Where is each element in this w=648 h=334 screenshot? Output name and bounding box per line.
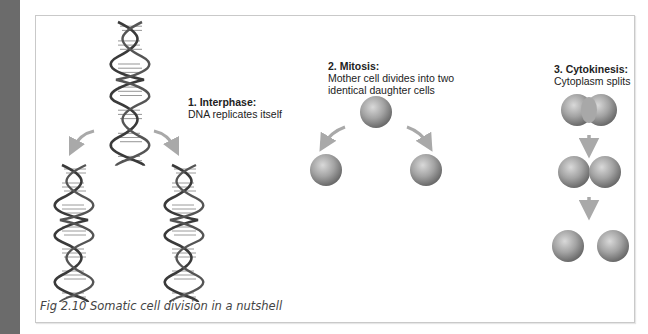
step-mitosis-description-line1: Mother cell divides into two [328,72,454,84]
step-interphase-label: 1. Interphase: DNA replicates itself [188,96,282,120]
dividing-cell-pinched [558,156,621,188]
daughter-cell-left [310,154,342,186]
step-mitosis-title: 2. Mitosis: [328,60,454,72]
step-mitosis-label: 2. Mitosis: Mother cell divides into two… [328,60,454,96]
figure-caption: Fig 2.10 Somatic cell division in a nuts… [40,299,282,313]
step-interphase-title: 1. Interphase: [188,96,282,108]
dna-helix-parent [111,22,150,166]
dividing-cell-fused [561,94,617,126]
daughter-cell-right [410,154,442,186]
arrow-dna-right [154,131,175,148]
separated-cell-right [597,230,629,262]
step-cytokinesis-label: 3. Cytokinesis: Cytoplasm splits [554,63,630,87]
arrow-mitosis-left [324,127,345,144]
cell-division-illustration [0,0,648,334]
mother-cell [360,96,392,128]
separated-cell-left [552,230,584,262]
arrow-dna-left [73,131,94,148]
dna-helix-copy-left [55,165,94,302]
arrow-mitosis-right [407,127,428,144]
step-interphase-description: DNA replicates itself [188,108,282,120]
dna-helix-copy-right [165,165,204,302]
step-cytokinesis-description: Cytoplasm splits [554,75,630,87]
step-cytokinesis-title: 3. Cytokinesis: [554,63,630,75]
step-mitosis-description-line2: identical daughter cells [328,84,454,96]
